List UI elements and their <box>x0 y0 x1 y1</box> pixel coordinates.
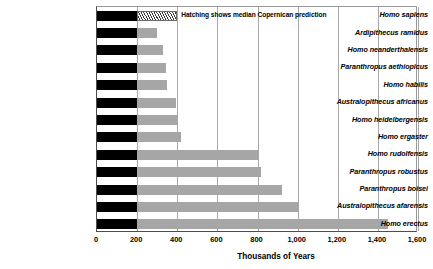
bar-segment-elapsed <box>97 167 137 177</box>
bar-segment-predicted <box>137 115 177 125</box>
hatching-annotation: Hatching shows median Copernican predict… <box>181 11 326 18</box>
category-label: Paranthropus boisei <box>336 184 428 193</box>
category-label: Paranthropus aethiopicus <box>336 62 428 71</box>
bar <box>97 11 177 21</box>
x-tick-label: 1,600 <box>408 235 427 244</box>
bar-segment-predicted <box>137 202 298 212</box>
bar-segment-predicted <box>137 167 260 177</box>
x-tick-label: 1,400 <box>368 235 387 244</box>
bar-segment-elapsed <box>97 150 137 160</box>
x-tick-label: 1,000 <box>287 235 306 244</box>
x-tick-label: 1,200 <box>328 235 347 244</box>
category-label: Homo habilis <box>336 80 428 89</box>
bar-segment-elapsed <box>97 63 137 73</box>
category-label: Australopithecus afarensis <box>336 201 428 210</box>
bar-segment-elapsed <box>97 132 137 142</box>
x-tick-label: 200 <box>130 235 142 244</box>
x-tick-label: 800 <box>250 235 262 244</box>
category-label: Homo erectus <box>336 219 428 228</box>
category-label: Homo heidelbergensis <box>336 115 428 124</box>
bar-segment-predicted <box>137 80 167 90</box>
bar <box>97 167 261 177</box>
bar-segment-predicted <box>137 28 157 38</box>
bar-segment-predicted <box>137 98 176 108</box>
x-axis-title: Thousands of Years <box>62 252 433 261</box>
bar <box>97 185 282 195</box>
bar <box>97 28 157 38</box>
bar-segment-elapsed <box>97 219 137 229</box>
bar-segment-predicted <box>137 45 163 55</box>
bar <box>97 98 176 108</box>
category-label: Ardipithecus ramidus <box>336 28 428 37</box>
x-tick-label: 400 <box>170 235 182 244</box>
bar <box>97 132 181 142</box>
bar-segment-predicted <box>137 150 257 160</box>
bar <box>97 150 258 160</box>
bar <box>97 80 167 90</box>
bar-segment-elapsed <box>97 185 137 195</box>
bar-segment-elapsed <box>97 98 137 108</box>
category-label: Homo sapiens <box>336 10 428 19</box>
bar <box>97 115 177 125</box>
bar-segment-elapsed <box>97 115 137 125</box>
bar-segment-predicted <box>137 185 281 195</box>
category-label: Australopithecus africanus <box>336 97 428 106</box>
bar-segment-elapsed <box>97 45 137 55</box>
bar-segment-elapsed <box>97 202 137 212</box>
bar-segment-predicted <box>137 132 181 142</box>
bar-segment-elapsed <box>97 11 137 21</box>
x-tick-label: 600 <box>210 235 222 244</box>
bar-segment-hatched <box>137 11 177 21</box>
bar <box>97 202 298 212</box>
bar <box>97 45 163 55</box>
bar-segment-elapsed <box>97 28 137 38</box>
bar-segment-elapsed <box>97 80 137 90</box>
category-label: Paranthropus robustus <box>336 167 428 176</box>
category-label: Homo neanderthalensis <box>336 45 428 54</box>
category-label: Homo ergaster <box>336 132 428 141</box>
x-tick-label: 0 <box>94 235 98 244</box>
bar-segment-predicted <box>137 63 166 73</box>
category-label: Homo rudolfensis <box>336 149 428 158</box>
bar <box>97 63 166 73</box>
